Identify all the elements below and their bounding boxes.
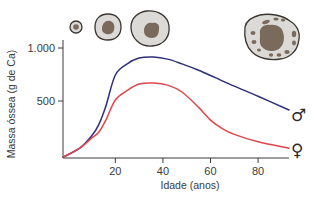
series-layer xyxy=(63,57,289,157)
y-axis-title: Massa óssea (g de Ca) xyxy=(5,50,17,159)
y-ticks: 5001.000 xyxy=(27,42,63,107)
male-series-line xyxy=(63,57,289,157)
bone-cross-section-small-icon xyxy=(95,14,121,40)
x-tick-label: 20 xyxy=(109,165,121,177)
x-tick-label: 80 xyxy=(252,165,264,177)
bone-cross-section-tiny-icon xyxy=(70,21,82,33)
bone-cross-section-peak-icon xyxy=(131,11,169,46)
bone-cross-section-porous-icon xyxy=(245,14,299,59)
bone-mass-chart: 5001.000 20406080 Massa óssea (g de Ca) … xyxy=(0,0,314,204)
x-tick-label: 60 xyxy=(204,165,216,177)
x-ticks: 20406080 xyxy=(109,158,264,177)
bone-illustrations xyxy=(70,11,299,60)
female-symbol: ♀ xyxy=(291,140,303,160)
male-symbol: ♂ xyxy=(291,105,306,125)
female-series-line xyxy=(63,83,289,157)
y-tick-label: 1.000 xyxy=(27,42,55,54)
y-tick-label: 500 xyxy=(37,95,55,107)
x-tick-label: 40 xyxy=(157,165,169,177)
x-axis-title: Idade (anos) xyxy=(161,179,220,191)
